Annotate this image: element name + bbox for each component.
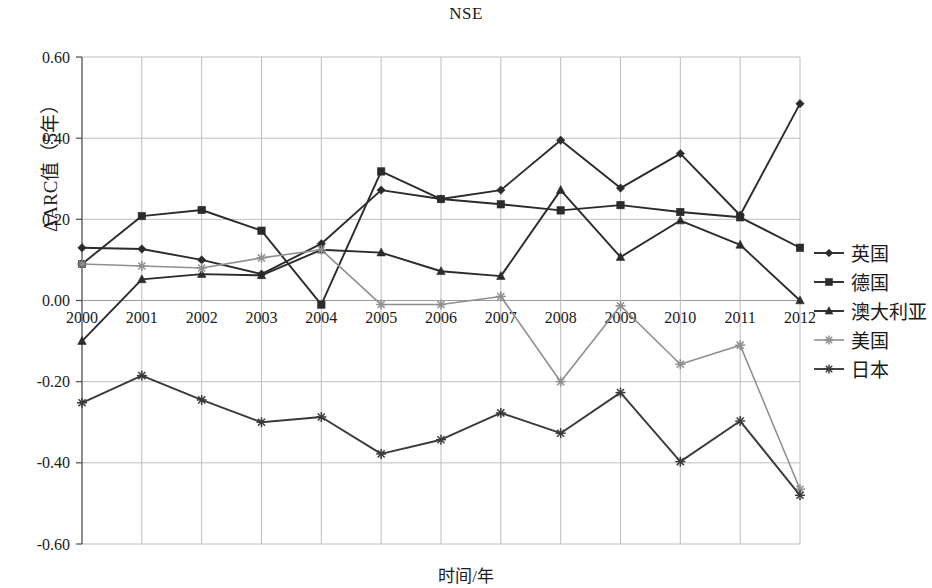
legend-label: 日本 [851, 355, 889, 382]
marker-square [677, 208, 684, 215]
x-tick-label: 2001 [126, 309, 158, 326]
marker-square [377, 168, 384, 175]
marker-asterisk [197, 395, 207, 405]
y-tick-label: -0.60 [37, 536, 70, 553]
legend-key-svg [812, 274, 846, 290]
legend-marker-icon [812, 303, 846, 319]
marker-square [796, 244, 803, 251]
marker-asterisk [616, 388, 626, 398]
marker-star [496, 291, 506, 301]
marker-square [826, 278, 833, 285]
marker-asterisk [795, 490, 805, 500]
legend-marker-icon [812, 245, 846, 261]
marker-square [318, 301, 325, 308]
legend-label: 德国 [851, 268, 889, 295]
marker-star [197, 263, 207, 273]
legend-label: 英国 [851, 239, 889, 266]
marker-star [616, 301, 626, 311]
y-tick-label: 0.20 [42, 211, 70, 228]
marker-star [376, 300, 386, 310]
y-tick-label: 0.00 [42, 292, 70, 309]
legend-item-5[interactable]: 日本 [812, 354, 932, 383]
plot-area: 0.600.400.200.00-0.20-0.40-0.60 20002001… [0, 0, 932, 588]
legend-label: 澳大利亚 [851, 297, 927, 324]
x-tick-label: 2008 [545, 309, 577, 326]
marker-star [137, 261, 147, 271]
marker-star [257, 253, 267, 263]
marker-asterisk [436, 435, 446, 445]
legend: 英国德国澳大利亚美国日本 [812, 238, 932, 383]
legend-key-svg [812, 245, 846, 261]
marker-asterisk [735, 416, 745, 426]
marker-asterisk [496, 408, 506, 418]
legend-item-4[interactable]: 美国 [812, 325, 932, 354]
legend-item-3[interactable]: 澳大利亚 [812, 296, 932, 325]
marker-diamond [825, 249, 833, 257]
x-tick-label: 2005 [365, 309, 397, 326]
y-tick-label: -0.20 [37, 373, 70, 390]
marker-star [316, 245, 326, 255]
marker-asterisk [675, 457, 685, 467]
marker-asterisk [77, 398, 87, 408]
legend-marker-icon [812, 332, 846, 348]
x-tick-label: 2004 [305, 309, 337, 326]
marker-asterisk [257, 417, 267, 427]
marker-square [736, 214, 743, 221]
marker-diamond [78, 244, 86, 252]
marker-star [735, 340, 745, 350]
axis-lines [76, 57, 82, 544]
x-tick-label: 2003 [246, 309, 278, 326]
x-tick-label: 2002 [186, 309, 218, 326]
marker-asterisk [556, 428, 566, 438]
marker-square [497, 201, 504, 208]
marker-star [824, 335, 833, 344]
legend-key-svg [812, 361, 846, 377]
legend-item-1[interactable]: 英国 [812, 238, 932, 267]
legend-key-svg [812, 332, 846, 348]
y-tick-label: 0.40 [42, 130, 70, 147]
marker-square [557, 207, 564, 214]
legend-marker-icon [812, 361, 846, 377]
y-tick-label: -0.40 [37, 454, 70, 471]
y-tick-label: 0.60 [42, 49, 70, 66]
x-axis-title: 时间/年 [0, 562, 932, 587]
marker-triangle [556, 186, 564, 194]
marker-square [198, 206, 205, 213]
x-tick-label: 2010 [664, 309, 696, 326]
marker-triangle [676, 216, 684, 224]
chart-container: NSE ΔARC值（5年） 0.600.400.200.00-0.20-0.40… [0, 0, 932, 588]
marker-star [675, 359, 685, 369]
legend-label: 美国 [851, 326, 889, 353]
marker-star [556, 377, 566, 387]
marker-square [617, 201, 624, 208]
marker-asterisk [316, 412, 326, 422]
x-tick-label: 2011 [724, 309, 755, 326]
marker-star [436, 300, 446, 310]
x-tick-label: 2006 [425, 309, 457, 326]
legend-key-svg [812, 303, 846, 319]
marker-star [77, 259, 87, 269]
marker-asterisk [137, 371, 147, 381]
marker-asterisk [824, 364, 833, 373]
marker-diamond [197, 256, 205, 264]
legend-marker-icon [812, 274, 846, 290]
marker-diamond [138, 245, 146, 253]
marker-square [437, 195, 444, 202]
marker-asterisk [376, 449, 386, 459]
marker-square [258, 227, 265, 234]
marker-diamond [796, 99, 804, 107]
x-axis-tick-labels: 2000200120022003200420052006200720082009… [66, 309, 816, 326]
y-axis-tick-labels: 0.600.400.200.00-0.20-0.40-0.60 [37, 49, 70, 553]
legend-item-2[interactable]: 德国 [812, 267, 932, 296]
marker-square [138, 212, 145, 219]
